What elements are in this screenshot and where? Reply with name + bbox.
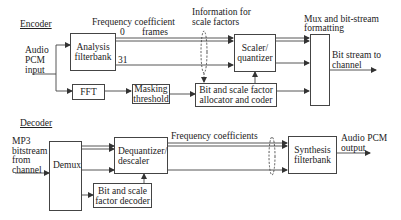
audio-pcm-input-label: Audio PCM input: [25, 45, 49, 75]
mp3-codec-diagram: Encoder Audio PCM input Frequency coeffi…: [0, 0, 401, 220]
band-last-label: 31: [118, 56, 128, 66]
dequantizer-descaler-block: Dequantizer/ descaler: [114, 137, 168, 174]
demux-block: Demux: [49, 141, 82, 211]
fft-block: FFT: [72, 84, 105, 100]
encoder-section-label: Encoder: [20, 20, 52, 30]
bit-stream-output-label: Bit stream to channel: [332, 50, 381, 70]
mux-bitstream-formatting-block: [310, 34, 330, 106]
audio-pcm-output-label: Audio PCM output: [341, 134, 387, 153]
mux-label-line2: formatting: [304, 24, 344, 34]
band-first-label: 0: [120, 28, 125, 38]
synthesis-filterbank-block: Synthesis filterbank: [288, 136, 337, 174]
analysis-filterbank-block: Analysis filterbank: [70, 33, 116, 71]
masking-threshold-block: Masking threshold: [132, 84, 170, 104]
frames-label: frames: [142, 28, 168, 38]
mp3-bitstream-input-label: MP3 bitstream from channel: [12, 137, 47, 175]
bit-scale-factor-decoder-block: Bit and scale factor decoder: [93, 183, 152, 208]
frequency-coefficients-label: Frequency coefficients: [171, 132, 258, 142]
decoder-section-label: Decoder: [20, 119, 52, 129]
scaler-quantizer-block: Scaler/ quantizer: [234, 34, 276, 72]
bit-scale-factor-allocator-block: Bit and scale factor allocator and coder: [195, 83, 277, 107]
scale-factors-label: scale factors: [192, 18, 239, 28]
